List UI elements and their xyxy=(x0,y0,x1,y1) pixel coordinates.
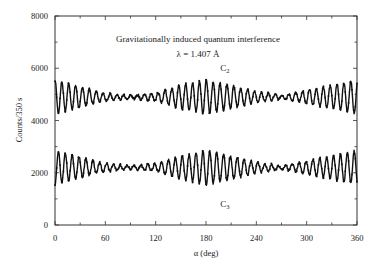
data-point xyxy=(264,100,266,102)
data-point xyxy=(128,167,130,169)
data-point xyxy=(304,163,306,165)
data-point xyxy=(146,163,148,165)
data-point xyxy=(172,88,174,90)
data-point xyxy=(130,169,132,171)
data-point xyxy=(341,164,343,166)
data-point xyxy=(225,177,227,179)
data-point xyxy=(323,178,325,180)
data-point xyxy=(267,92,269,94)
data-point xyxy=(187,98,189,100)
data-point xyxy=(98,164,100,166)
data-point xyxy=(190,97,192,99)
data-point xyxy=(284,165,286,167)
data-point xyxy=(230,159,232,161)
data-point xyxy=(83,172,85,174)
y-tick-label: 0 xyxy=(44,220,48,230)
data-point xyxy=(66,162,68,164)
data-point xyxy=(140,100,142,102)
data-point xyxy=(185,180,187,182)
data-point xyxy=(296,170,298,172)
data-point xyxy=(239,171,241,173)
y-tick-label: 2000 xyxy=(31,168,48,178)
x-axis-label: α (deg) xyxy=(194,248,219,258)
data-point xyxy=(172,175,174,177)
data-point xyxy=(210,102,212,104)
data-point xyxy=(225,86,227,88)
data-point xyxy=(308,92,310,94)
data-point xyxy=(328,95,330,97)
data-point xyxy=(338,94,340,96)
y-tick-label: 8000 xyxy=(31,11,48,21)
data-point xyxy=(120,163,122,165)
data-point xyxy=(68,82,70,84)
data-point xyxy=(207,90,209,92)
data-point xyxy=(353,109,355,111)
data-point xyxy=(123,169,125,171)
data-point xyxy=(96,92,98,94)
data-point xyxy=(195,111,197,113)
data-point xyxy=(299,162,301,164)
data-point xyxy=(338,169,340,171)
x-tick-label: 0 xyxy=(53,233,57,243)
data-point xyxy=(64,111,66,113)
data-point xyxy=(314,94,316,96)
data-point xyxy=(212,82,214,84)
data-point xyxy=(113,100,115,102)
data-point xyxy=(152,168,154,170)
curve-c2 xyxy=(55,80,357,114)
data-point xyxy=(200,93,202,95)
curve-label-c2: C2 xyxy=(220,63,229,75)
data-point xyxy=(334,165,336,167)
data-point xyxy=(240,88,242,90)
data-point xyxy=(232,175,234,177)
data-point xyxy=(318,98,320,100)
data-point xyxy=(121,96,123,98)
data-point xyxy=(126,165,128,167)
data-point xyxy=(324,97,326,99)
data-point xyxy=(205,184,207,186)
data-point xyxy=(286,98,288,100)
data-point xyxy=(202,113,204,115)
data-point xyxy=(356,181,358,183)
data-point xyxy=(220,175,222,177)
data-point xyxy=(261,91,263,93)
data-point xyxy=(313,158,315,160)
data-point xyxy=(276,168,278,170)
data-point xyxy=(162,100,164,102)
data-point xyxy=(262,168,264,170)
data-point xyxy=(84,159,86,161)
data-point xyxy=(187,165,189,167)
data-point xyxy=(195,153,197,155)
data-point xyxy=(210,160,212,162)
data-point xyxy=(133,165,135,167)
data-point xyxy=(336,180,338,182)
data-point xyxy=(334,98,336,100)
data-point xyxy=(306,161,308,163)
data-point xyxy=(272,167,274,169)
data-point xyxy=(204,99,206,101)
data-point xyxy=(158,170,160,172)
data-point xyxy=(264,163,266,165)
data-point xyxy=(94,93,96,95)
data-point xyxy=(214,89,216,91)
data-point xyxy=(182,155,184,157)
data-point xyxy=(301,171,303,173)
data-point xyxy=(71,107,73,109)
data-point xyxy=(58,113,60,115)
data-curves xyxy=(54,79,358,186)
data-point xyxy=(74,87,76,89)
data-point xyxy=(54,184,56,186)
data-point xyxy=(69,91,71,93)
data-point xyxy=(344,91,346,93)
data-point xyxy=(168,104,170,106)
data-point xyxy=(227,175,229,177)
data-point xyxy=(183,94,185,96)
data-point xyxy=(153,99,155,101)
data-point xyxy=(200,169,202,171)
data-point xyxy=(78,106,80,108)
data-point xyxy=(271,100,273,102)
data-point xyxy=(94,171,96,173)
data-point xyxy=(314,169,316,171)
data-point xyxy=(282,95,284,97)
data-point xyxy=(292,164,294,166)
